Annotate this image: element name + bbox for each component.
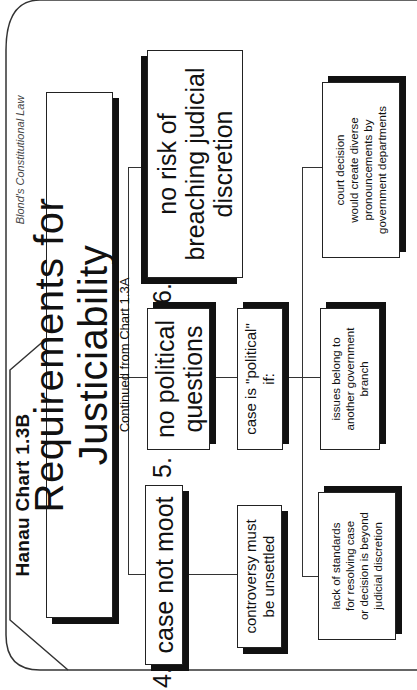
connector-to-6 bbox=[128, 167, 147, 168]
condition-2-line1: issues belong to bbox=[329, 337, 343, 420]
requirement-5-number: 5. bbox=[148, 457, 176, 478]
condition-3-line1: court decision bbox=[333, 135, 347, 206]
condition-lack-of-standards-box: lack of standards for resolving case or … bbox=[318, 492, 396, 640]
requirement-6-label-line3: discretion bbox=[209, 111, 237, 218]
requirement-6-label-line1: no risk of bbox=[153, 113, 181, 214]
requirement-4-box: case not moot bbox=[145, 485, 183, 665]
condition-3-line3: pronouncements by bbox=[361, 120, 375, 221]
condition-1-line1: lack of standards bbox=[329, 523, 343, 610]
moot-condition-line1: controversy must bbox=[242, 519, 260, 633]
requirement-4-number: 4. bbox=[148, 667, 176, 688]
requirement-4-label: case not moot bbox=[150, 496, 178, 653]
connector-to-court bbox=[302, 167, 322, 168]
page-subtitle: Continued from Chart 1.3A bbox=[117, 278, 133, 433]
connector-4-to-controversy bbox=[183, 574, 237, 575]
condition-1-line3: or decision is beyond bbox=[357, 512, 371, 620]
connector-conditions-horizontal bbox=[302, 168, 303, 577]
connector-to-lack bbox=[302, 576, 318, 577]
connector-5-to-political bbox=[210, 377, 237, 378]
page-title: Requirements for Justiciability bbox=[27, 93, 115, 617]
condition-3-line4: government departments bbox=[375, 106, 389, 234]
condition-2-line2: another government bbox=[343, 328, 357, 431]
requirement-6-number: 6. bbox=[148, 283, 176, 304]
condition-1-line2: for resolving case bbox=[343, 521, 357, 611]
requirement-6-label-line2: breaching judicial bbox=[181, 67, 209, 260]
connector-political-down bbox=[283, 377, 302, 378]
requirement-5-label-line2: questions bbox=[179, 325, 207, 432]
diagram-stage: Hanau Chart 1.3B Blond's Constitutional … bbox=[0, 0, 417, 690]
condition-2-line3: branch bbox=[357, 361, 371, 396]
condition-3-line2: would create diverse bbox=[347, 117, 361, 222]
political-if-box: case is "political" if: bbox=[237, 308, 283, 450]
condition-another-branch-box: issues belong to another government bran… bbox=[320, 308, 380, 450]
requirement-5-label-line1: no political bbox=[151, 320, 179, 438]
moot-condition-line2: be unsettled bbox=[260, 536, 278, 618]
moot-condition-box: controversy must be unsettled bbox=[237, 505, 282, 648]
condition-1-line4: judicial discretion bbox=[371, 522, 385, 610]
requirement-6-box: no risk of breaching judicial discretion bbox=[147, 50, 243, 278]
connector-to-4 bbox=[128, 574, 145, 575]
connector-to-issues bbox=[302, 377, 320, 378]
condition-diverse-pronouncements-box: court decision would create diverse pron… bbox=[322, 82, 400, 258]
requirement-5-box: no political questions bbox=[147, 308, 210, 450]
title-box: Requirements for Justiciability Continue… bbox=[46, 92, 113, 618]
political-if-line1: case is "political" bbox=[242, 323, 260, 435]
political-if-line2: if: bbox=[260, 373, 278, 385]
